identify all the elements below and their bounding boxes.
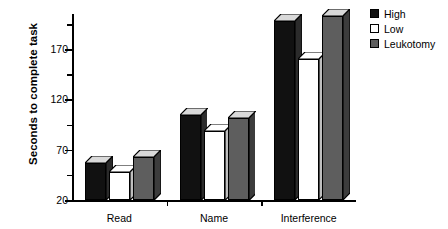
x-category-label-name: Name <box>200 212 228 224</box>
x-tick <box>261 200 263 206</box>
legend-item-leukotomy: Leukotomy <box>370 37 435 50</box>
legend-swatch-low <box>370 24 379 33</box>
legend-label-low: Low <box>384 23 403 35</box>
bar-front-face <box>109 172 130 200</box>
bar-side-face <box>154 150 161 200</box>
bar-interference-low <box>298 59 319 200</box>
y-tick-label-70: 70 <box>56 144 68 156</box>
y-tick-label-120: 120 <box>50 93 68 105</box>
y-tick-label-20: 20 <box>56 194 68 206</box>
y-minor-tick <box>67 24 72 26</box>
bar-front-face <box>180 115 201 200</box>
plot-area: 2070120170 ReadNameInterference <box>72 14 356 200</box>
legend-swatch-high <box>370 9 379 18</box>
bar-interference-leukotomy <box>322 16 343 200</box>
y-minor-tick <box>67 125 72 127</box>
legend-label-high: High <box>384 8 406 20</box>
bar-front-face <box>322 16 343 200</box>
bar-front-face <box>85 163 106 200</box>
chart-legend: HighLowLeukotomy <box>370 7 435 52</box>
bar-read-low <box>109 172 130 200</box>
bar-read-high <box>85 163 106 200</box>
bar-front-face <box>133 157 154 200</box>
bar-front-face <box>298 59 319 200</box>
bar-name-high <box>180 115 201 200</box>
legend-item-high: High <box>370 7 435 20</box>
legend-item-low: Low <box>370 22 435 35</box>
y-tick-label-170: 170 <box>50 43 68 55</box>
x-tick <box>167 200 169 206</box>
bar-chart-figure: Seconds to complete task 2070120170 Read… <box>0 0 448 229</box>
x-axis-line <box>72 200 356 202</box>
bar-name-leukotomy <box>228 118 249 200</box>
bar-front-face <box>228 118 249 200</box>
x-category-label-interference: Interference <box>281 212 337 224</box>
legend-label-leukotomy: Leukotomy <box>384 38 435 50</box>
bar-interference-high <box>274 21 295 200</box>
bar-front-face <box>274 21 295 200</box>
y-minor-tick <box>67 74 72 76</box>
bar-front-face <box>204 131 225 200</box>
bar-read-leukotomy <box>133 157 154 200</box>
y-axis-line <box>72 14 74 200</box>
bar-side-face <box>343 9 350 200</box>
bar-name-low <box>204 131 225 200</box>
bar-side-face <box>249 111 256 200</box>
x-category-label-read: Read <box>107 212 132 224</box>
y-axis-title: Seconds to complete task <box>27 0 39 189</box>
legend-swatch-leukotomy <box>370 39 379 48</box>
y-minor-tick <box>67 175 72 177</box>
